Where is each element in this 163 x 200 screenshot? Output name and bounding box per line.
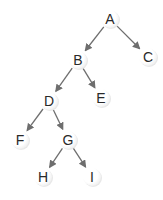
node-label: B [73, 52, 82, 68]
edge-g-i [73, 148, 85, 167]
edge-b-d [56, 68, 72, 91]
edge-d-g [53, 110, 62, 129]
node-label: F [16, 132, 25, 148]
edge-a-b [85, 27, 103, 51]
tree-node-f: F [11, 131, 30, 150]
node-label: G [63, 132, 74, 148]
tree-node-h: H [34, 168, 53, 187]
node-label: H [38, 169, 48, 185]
tree-node-c: C [139, 48, 158, 67]
node-label: E [96, 90, 105, 106]
tree-node-g: G [59, 131, 78, 150]
edge-b-e [83, 69, 95, 88]
node-label: A [105, 11, 115, 27]
edge-g-h [50, 148, 63, 167]
edge-d-f [27, 109, 43, 130]
edge-a-c [117, 26, 139, 48]
nodes-layer: ABCDEFGHI [11, 10, 158, 187]
tree-node-b: B [69, 51, 88, 70]
tree-node-i: I [83, 168, 102, 187]
node-label: D [44, 93, 54, 109]
tree-node-d: D [40, 92, 59, 111]
tree-node-e: E [92, 89, 111, 108]
node-label: C [143, 49, 153, 65]
tree-node-a: A [101, 10, 120, 29]
node-label: I [90, 169, 94, 185]
tree-diagram: ABCDEFGHI [0, 0, 163, 200]
